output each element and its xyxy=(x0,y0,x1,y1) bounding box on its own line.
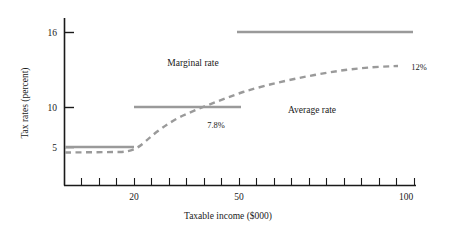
y-tick-label-16: 16 xyxy=(48,28,58,38)
x-tick-label-100: 100 xyxy=(399,192,414,202)
y-tick-label-5: 5 xyxy=(52,143,57,153)
average-rate-label: Average rate xyxy=(288,105,336,115)
average-at-40-label: 7.8% xyxy=(207,120,225,130)
chart-svg: 16 10 5 20 50 100 xyxy=(0,0,452,245)
x-tick-label-50: 50 xyxy=(234,192,244,202)
y-tick-label-10: 10 xyxy=(48,103,58,113)
y-axis-title: Tax rates (percent) xyxy=(20,67,31,138)
marginal-rate-label: Marginal rate xyxy=(167,58,218,68)
y-axis-ticks xyxy=(65,33,75,148)
average-rate-series xyxy=(65,66,398,153)
x-axis-ticks xyxy=(82,178,415,186)
x-axis-title: Taxable income ($000) xyxy=(184,211,272,222)
average-at-100-label: 12% xyxy=(411,62,427,72)
x-tick-label-20: 20 xyxy=(129,192,139,202)
tax-rate-chart: 16 10 5 20 50 100 xyxy=(0,0,452,245)
marginal-rate-series xyxy=(65,32,413,147)
average-rate-curve xyxy=(65,66,398,153)
